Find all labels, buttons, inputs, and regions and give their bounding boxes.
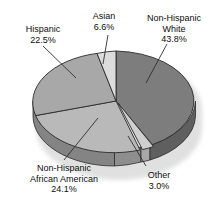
label-non-hispanic-african-american: Non-Hispanic African American 24.1% [6,163,122,195]
label-hispanic: Hispanic 22.5% [6,24,80,45]
label-line-1: Hispanic [26,24,61,34]
label-percent: 6.6% [73,22,135,33]
label-asian: Asian 6.6% [73,11,135,32]
label-percent: 43.8% [131,34,217,45]
label-line-2: African American [30,174,98,184]
label-percent: 24.1% [6,184,122,195]
label-line-1: Other [148,170,171,180]
label-percent: 3.0% [128,181,190,192]
label-non-hispanic-white: Non-Hispanic White 43.8% [131,13,217,45]
label-line-2: White [162,24,185,34]
label-line-1: Asian [93,11,116,21]
label-line-1: Non-Hispanic [147,13,201,23]
label-line-1: Non-Hispanic [37,163,91,173]
label-other: Other 3.0% [128,170,190,191]
label-percent: 22.5% [6,35,80,46]
pie-chart: Non-Hispanic White 43.8% Asian 6.6% Hisp… [0,0,221,208]
